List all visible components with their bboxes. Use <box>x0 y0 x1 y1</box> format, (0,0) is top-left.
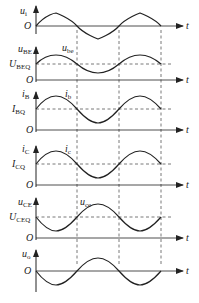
t-label: t <box>186 265 189 276</box>
t-label: t <box>186 124 189 135</box>
panel-ic: iC ICQ ic O t <box>11 143 189 190</box>
panel-uo: uo O t <box>22 248 189 292</box>
uo-axis-label: uo <box>22 248 31 261</box>
ib-waveform <box>36 96 161 123</box>
origin-label: O <box>26 124 33 135</box>
ube-axis-label: uBE <box>18 43 32 56</box>
panel-ube: uBE UBEQ ube O t <box>9 42 189 85</box>
ibq-label: IBQ <box>11 103 25 116</box>
t-label: t <box>186 74 189 85</box>
ic-axis-label: iC <box>22 143 30 156</box>
t-label: t <box>186 232 189 243</box>
origin-label: O <box>24 20 31 31</box>
waveform-diagram: ui O t uBE UBEQ ube O t iB IBQ ib O t iC… <box>0 0 199 303</box>
ubeq-label: UBEQ <box>9 58 30 71</box>
ib-axis-label: iB <box>22 88 30 101</box>
uceq-label: UCEQ <box>9 211 30 224</box>
origin-label: O <box>24 265 31 276</box>
origin-label: O <box>26 232 33 243</box>
t-label: t <box>186 20 189 31</box>
panel-ui: ui O t <box>20 5 189 39</box>
t-label: t <box>186 179 189 190</box>
ic-waveform <box>36 151 161 178</box>
panel-uce: uCE UCEQ uce O t <box>9 196 189 243</box>
origin-label: O <box>26 179 33 190</box>
icq-label: ICQ <box>11 158 25 171</box>
uce-signal-label: uce <box>80 196 91 209</box>
uo-waveform <box>36 258 161 285</box>
time-markers <box>77 30 161 265</box>
ube-signal-label: ube <box>62 42 74 55</box>
origin-label: O <box>26 74 33 85</box>
uce-axis-label: uCE <box>18 196 32 209</box>
uce-waveform <box>36 204 161 231</box>
ui-axis-label: ui <box>20 5 27 18</box>
panel-ib: iB IBQ ib O t <box>11 88 189 135</box>
